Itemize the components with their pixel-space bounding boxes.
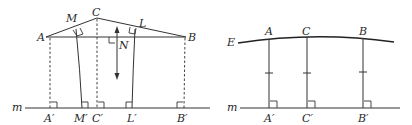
label-a: A (36, 31, 45, 44)
right-angle-m-prime (82, 102, 88, 108)
right-angle-b-prime (177, 102, 183, 108)
label-line-m-right: m (227, 101, 237, 114)
left-figure: A C B M L N m A′ M′ C′ L′ B′ (12, 6, 210, 125)
curve-e (238, 37, 394, 43)
label-b-prime: B′ (176, 112, 188, 125)
label-b: B (187, 31, 196, 44)
label-line-m-left: m (12, 101, 22, 114)
label-m: M (65, 12, 78, 25)
right-angle-b-prime-right (364, 101, 371, 108)
label-m-prime: M′ (73, 112, 88, 125)
right-angle-a-prime-right (270, 101, 277, 108)
geometry-figure: A C B M L N m A′ M′ C′ L′ B′ E A C B m (0, 0, 412, 125)
label-a-prime: A′ (43, 112, 55, 125)
right-angle-c-prime-right (308, 101, 315, 108)
dashed-bb-prime (184, 38, 185, 108)
arrow-down-icon (115, 73, 120, 80)
label-a-right: A (264, 25, 273, 38)
label-l: L (138, 17, 146, 30)
right-angle-c-prime (98, 102, 104, 108)
right-angle-a-prime (51, 102, 57, 108)
right-angle-m (73, 28, 83, 36)
label-n: N (118, 39, 129, 52)
curve-mm-prime (76, 29, 82, 108)
right-figure: E A C B m A′ C′ B′ (226, 25, 400, 125)
label-e: E (226, 36, 235, 49)
right-angle-l-prime (126, 102, 132, 108)
label-l-prime: L′ (126, 112, 137, 125)
label-b-right: B (358, 25, 367, 38)
label-a-prime-right: A′ (263, 112, 275, 125)
curve-ll-prime (132, 29, 135, 108)
label-b-prime-right: B′ (357, 112, 369, 125)
label-c: C (92, 6, 101, 19)
right-angle-n (109, 37, 115, 43)
label-c-prime: C′ (92, 112, 103, 125)
label-c-prime-right: C′ (302, 112, 313, 125)
label-c-right: C (302, 25, 311, 38)
arrow-up-icon (115, 26, 120, 33)
